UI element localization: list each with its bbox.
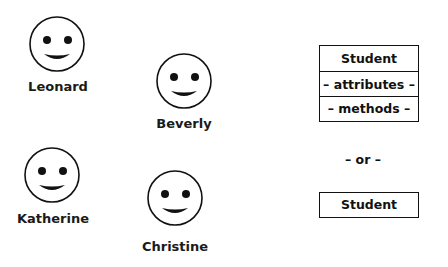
person-name-christine: Christine (125, 240, 225, 254)
uml-class-box-full: Student – attributes – – methods – (319, 45, 419, 122)
person-name-katherine: Katherine (3, 212, 103, 226)
uml-class-name: Student (320, 193, 418, 216)
uml-methods-section: – methods – (320, 96, 418, 120)
smiley-face-icon (156, 53, 212, 109)
smiley-face-icon (147, 170, 203, 226)
person-name-leonard: Leonard (8, 80, 108, 94)
uml-attributes-section: – attributes – (320, 71, 418, 96)
smiley-face-icon (29, 16, 85, 72)
person-name-beverly: Beverly (134, 117, 234, 131)
uml-class-box-compact: Student (319, 192, 419, 218)
uml-class-name: Student (320, 46, 418, 71)
or-separator: – or – (333, 152, 393, 167)
smiley-face-icon (24, 147, 80, 203)
